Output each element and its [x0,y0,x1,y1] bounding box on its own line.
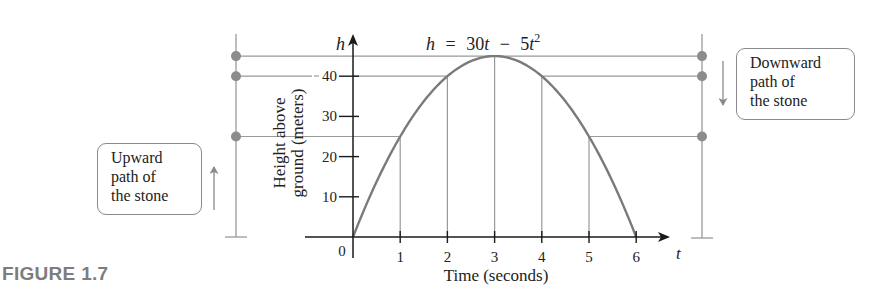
y-tick-label: 40 [322,68,337,84]
y-axis-title: Height above ground (meters) [270,88,307,197]
vertical-guide-lines [400,56,589,237]
callout-up-line1: Upward [111,148,193,167]
y-axis-title-line2: ground (meters) [288,88,307,197]
h-axis-variable: h [336,34,345,54]
x-tick-label: 5 [585,249,593,265]
upward-marker-dot [231,132,241,142]
x-tick-label: 1 [396,249,404,265]
eq-equals: = [446,34,456,54]
x-tick-label: 3 [491,249,499,265]
downward-marker-dot [697,71,707,81]
eq-minus: − [500,34,510,54]
x-axis-title: Time (seconds) [444,266,549,285]
downward-marker-dot [697,132,707,142]
t-axis-tick-labels: 123456 [396,249,640,265]
y-tick-label: 30 [322,108,337,124]
x-tick-label: 2 [444,249,452,265]
figure-1-7: 123456 10203040 0 h t Time (seconds) Hei… [0,0,869,300]
y-tick-label: 20 [322,149,337,165]
callout-up-line3: the stone [111,186,193,205]
upward-path-callout: Upward path of the stone [97,143,202,215]
eq-var1: t [484,34,490,54]
callout-down-line1: Downward [750,53,846,72]
downward-path-callout: Downward path of the stone [736,48,855,120]
callout-up-line2: path of [111,167,193,186]
x-tick-label: 4 [538,249,546,265]
x-tick-label: 6 [632,249,640,265]
upward-marker-dot [231,71,241,81]
eq-coef-b: 5 [520,34,529,54]
callout-down-line3: the stone [750,91,846,110]
t-axis-variable: t [676,244,682,263]
chart-title-equation: h = 30t − 5t2 [426,31,540,54]
callout-down-line2: path of [750,72,846,91]
y-tick-label: 10 [322,189,337,205]
y-axis-title-line1: Height above [270,97,289,188]
downward-marker-dot [697,51,707,61]
origin-label: 0 [338,243,346,259]
figure-label: FIGURE 1.7 [2,263,108,285]
eq-lhs: h [426,34,435,54]
eq-coef-a: 30 [466,34,484,54]
upward-marker-dot [231,51,241,61]
eq-exponent: 2 [534,31,540,45]
